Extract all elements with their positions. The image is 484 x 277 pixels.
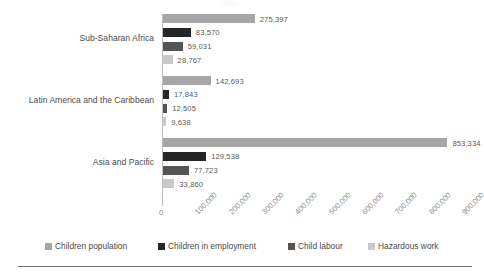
legend-item[interactable]: Child labour: [288, 241, 343, 251]
bar: [163, 28, 191, 37]
category-label-latin-america-and-the-caribbean: Latin America and the Caribbean: [0, 95, 154, 105]
bar: [163, 14, 255, 23]
x-axis-ticks: 0100,000200,000300,000400,000500,000600,…: [162, 206, 472, 246]
bar: [163, 55, 173, 64]
bar-row: 9,638: [163, 117, 463, 126]
bar: [163, 104, 167, 113]
bar-value-label: 275,397: [260, 14, 288, 23]
chart-legend: Children populationChildren in employmen…: [0, 241, 484, 259]
bar: [163, 90, 169, 99]
plot-area: 275,39783,57059,03128,767142,69317,84312…: [162, 14, 462, 206]
legend-label: Hazardous work: [378, 241, 439, 251]
legend-item[interactable]: Children in employment: [158, 241, 256, 251]
legend-swatch-icon: [158, 243, 165, 250]
bar: [163, 117, 166, 126]
bar-value-label: 28,767: [178, 55, 202, 64]
top-artifact: [222, 0, 238, 7]
bar: [163, 152, 206, 161]
bar: [163, 42, 183, 51]
legend-swatch-icon: [368, 243, 375, 250]
bar-row: 275,397: [163, 14, 463, 23]
bar: [163, 76, 211, 85]
bar-value-label: 12,505: [172, 104, 196, 113]
bar-value-label: 33,860: [179, 179, 203, 188]
bar-value-label: 17,843: [174, 90, 198, 99]
bar-row: 17,843: [163, 90, 463, 99]
bar-value-label: 129,538: [211, 152, 239, 161]
bar-row: 83,570: [163, 28, 463, 37]
bar-value-label: 142,693: [216, 76, 244, 85]
bar-value-label: 83,570: [196, 28, 220, 37]
x-tick-label: 900,000: [460, 191, 484, 217]
bar-row: 853,334: [163, 138, 463, 147]
bar-value-label: 9,638: [171, 117, 191, 126]
category-label-sub-saharan-africa: Sub-Saharan Africa: [0, 33, 154, 43]
bar-chart: Sub-Saharan Africa Latin America and the…: [0, 0, 484, 277]
bar-row: 59,031: [163, 42, 463, 51]
bar-value-label: 77,723: [194, 166, 218, 175]
category-label-asia-and-pacific: Asia and Pacific: [0, 157, 154, 167]
legend-label: Children in employment: [168, 241, 256, 251]
bar-row: 12,505: [163, 104, 463, 113]
legend-swatch-icon: [288, 243, 295, 250]
legend-label: Children population: [55, 241, 127, 251]
x-tick-label: 0: [159, 208, 163, 217]
legend-swatch-icon: [45, 243, 52, 250]
bar: [163, 179, 174, 188]
legend-label: Child labour: [298, 241, 343, 251]
bar-row: 77,723: [163, 166, 463, 175]
bar: [163, 138, 447, 147]
bar-row: 33,860: [163, 179, 463, 188]
legend-item[interactable]: Children population: [45, 241, 127, 251]
bar-value-label: 59,031: [188, 42, 212, 51]
bar-row: 129,538: [163, 152, 463, 161]
bar-row: 28,767: [163, 55, 463, 64]
bar: [163, 166, 189, 175]
bar-row: 142,693: [163, 76, 463, 85]
legend-item[interactable]: Hazardous work: [368, 241, 439, 251]
bottom-divider: [18, 266, 472, 267]
bar-value-label: 853,334: [452, 138, 480, 147]
